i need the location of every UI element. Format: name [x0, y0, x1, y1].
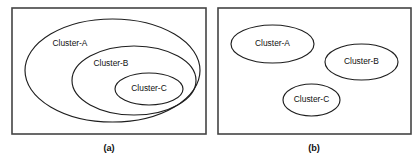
panel-a: Cluster-A Cluster-B Cluster-C (a) — [12, 8, 206, 153]
panel-b-frame — [218, 8, 411, 134]
panel-a-cluster-b-label: Cluster-B — [94, 58, 129, 68]
panel-b-cluster-a-label: Cluster-A — [255, 38, 290, 48]
cluster-figure: Cluster-A Cluster-B Cluster-C (a) Cluste… — [0, 0, 420, 161]
panel-a-caption: (a) — [103, 143, 114, 153]
panel-a-cluster-a-label: Cluster-A — [53, 38, 88, 48]
figure-canvas: Cluster-A Cluster-B Cluster-C (a) Cluste… — [0, 0, 420, 161]
panel-a-frame — [12, 8, 206, 134]
panel-b-cluster-b-label: Cluster-B — [344, 56, 379, 66]
panel-a-cluster-c-label: Cluster-C — [131, 83, 166, 93]
panel-b-caption: (b) — [308, 143, 320, 153]
panel-b: Cluster-A Cluster-B Cluster-C (b) — [218, 8, 411, 153]
panel-b-cluster-c-label: Cluster-C — [294, 94, 329, 104]
